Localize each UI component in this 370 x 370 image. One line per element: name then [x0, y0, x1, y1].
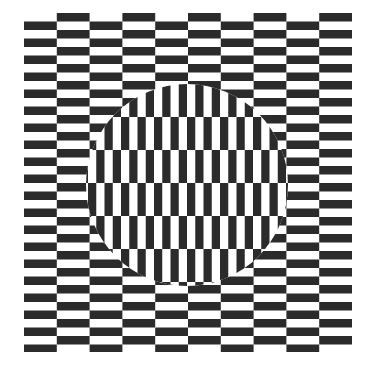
- horizontal-brick: [286, 311, 319, 320]
- horizontal-brick: [90, 328, 123, 337]
- vertical-brick: [187, 183, 195, 216]
- horizontal-brick: [286, 192, 319, 201]
- horizontal-brick: [24, 345, 57, 354]
- vertical-brick: [212, 150, 220, 183]
- horizontal-brick: [24, 226, 57, 235]
- horizontal-brick: [319, 47, 352, 56]
- vertical-brick: [179, 216, 187, 249]
- horizontal-brick: [155, 294, 188, 303]
- horizontal-brick: [221, 73, 254, 82]
- horizontal-brick: [24, 90, 57, 99]
- vertical-brick: [195, 84, 203, 117]
- horizontal-brick: [188, 336, 221, 345]
- horizontal-brick: [319, 81, 352, 90]
- horizontal-brick: [188, 319, 221, 328]
- vertical-brick: [187, 117, 195, 150]
- horizontal-brick: [155, 22, 188, 31]
- horizontal-brick: [254, 268, 287, 277]
- horizontal-brick: [319, 132, 352, 141]
- horizontal-brick: [122, 13, 155, 22]
- horizontal-brick: [319, 302, 352, 311]
- horizontal-brick: [254, 64, 287, 73]
- vertical-brick: [96, 150, 104, 183]
- vertical-brick: [212, 216, 220, 249]
- horizontal-brick: [24, 22, 57, 31]
- horizontal-brick: [24, 175, 57, 184]
- vertical-brick: [171, 117, 179, 150]
- horizontal-brick: [122, 81, 155, 90]
- horizontal-brick: [286, 345, 319, 354]
- horizontal-brick: [188, 30, 221, 39]
- horizontal-brick: [57, 30, 90, 39]
- horizontal-brick: [155, 328, 188, 337]
- horizontal-brick: [122, 285, 155, 294]
- horizontal-brick: [90, 73, 123, 82]
- horizontal-brick: [90, 311, 123, 320]
- horizontal-brick: [319, 166, 352, 175]
- horizontal-brick: [319, 183, 352, 192]
- vertical-brick: [146, 216, 154, 249]
- horizontal-brick: [24, 243, 57, 252]
- horizontal-brick: [221, 39, 254, 48]
- horizontal-brick: [24, 124, 57, 133]
- horizontal-brick: [286, 294, 319, 303]
- vertical-brick: [154, 117, 162, 150]
- horizontal-brick: [319, 319, 352, 328]
- horizontal-brick: [122, 302, 155, 311]
- horizontal-brick: [286, 243, 319, 252]
- horizontal-brick: [319, 13, 352, 22]
- horizontal-brick: [24, 311, 57, 320]
- horizontal-brick: [57, 217, 90, 226]
- vertical-brick: [129, 150, 137, 183]
- horizontal-brick: [319, 251, 352, 260]
- horizontal-brick: [319, 285, 352, 294]
- horizontal-brick: [57, 81, 90, 90]
- vertical-brick: [270, 183, 278, 216]
- horizontal-brick: [254, 47, 287, 56]
- vertical-brick: [146, 150, 154, 183]
- horizontal-brick: [286, 90, 319, 99]
- vertical-brick: [187, 249, 195, 282]
- horizontal-brick: [319, 234, 352, 243]
- vertical-brick: [179, 150, 187, 183]
- vertical-brick: [253, 117, 261, 150]
- horizontal-brick: [221, 328, 254, 337]
- horizontal-brick: [254, 98, 287, 107]
- horizontal-brick: [319, 200, 352, 209]
- vertical-brick: [253, 183, 261, 216]
- horizontal-brick: [319, 268, 352, 277]
- horizontal-brick: [57, 319, 90, 328]
- horizontal-brick: [286, 277, 319, 286]
- vertical-brick: [105, 183, 113, 216]
- horizontal-brick: [24, 328, 57, 337]
- horizontal-brick: [122, 336, 155, 345]
- horizontal-brick: [155, 56, 188, 65]
- vertical-brick: [121, 183, 129, 216]
- horizontal-brick: [254, 319, 287, 328]
- horizontal-brick: [90, 39, 123, 48]
- horizontal-brick: [286, 73, 319, 82]
- horizontal-brick: [24, 141, 57, 150]
- horizontal-brick: [24, 39, 57, 48]
- horizontal-brick: [57, 234, 90, 243]
- vertical-brick: [261, 150, 269, 183]
- horizontal-brick: [24, 73, 57, 82]
- horizontal-brick: [286, 260, 319, 269]
- horizontal-brick: [57, 98, 90, 107]
- horizontal-brick: [90, 90, 123, 99]
- horizontal-brick: [24, 56, 57, 65]
- horizontal-brick: [57, 132, 90, 141]
- horizontal-brick: [286, 22, 319, 31]
- horizontal-brick: [221, 294, 254, 303]
- horizontal-brick: [24, 192, 57, 201]
- horizontal-brick: [24, 260, 57, 269]
- ouchi-illusion-figure: [0, 0, 370, 370]
- horizontal-brick: [221, 56, 254, 65]
- vertical-brick: [228, 150, 236, 183]
- horizontal-brick: [90, 294, 123, 303]
- horizontal-brick: [254, 302, 287, 311]
- vertical-brick: [129, 216, 137, 249]
- vertical-brick: [162, 84, 170, 117]
- horizontal-brick: [24, 158, 57, 167]
- horizontal-brick: [57, 200, 90, 209]
